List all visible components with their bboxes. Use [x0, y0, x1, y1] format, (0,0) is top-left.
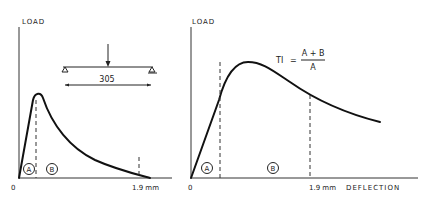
- left-chart: LOAD A B 0 1.9 mm 305: [11, 18, 172, 192]
- formula-denominator: A: [310, 63, 316, 72]
- formula-equals: =: [290, 56, 297, 65]
- left-origin-label: 0: [11, 184, 15, 192]
- beam-schematic: 305: [62, 44, 157, 87]
- right-load-curve: [191, 62, 380, 178]
- right-x-axis-label: DEFLECTION: [346, 184, 400, 192]
- right-support-icon: [149, 67, 155, 72]
- left-x-tick-label: 1.9 mm: [132, 184, 159, 192]
- load-deflection-diagram: LOAD A B 0 1.9 mm 305 LOAD: [0, 0, 436, 201]
- right-origin-label: 0: [188, 184, 192, 192]
- right-x-tick-label: 1.9 mm: [309, 184, 336, 192]
- load-arrow-icon: [106, 61, 111, 67]
- formula-lhs: TI: [275, 56, 283, 65]
- toughness-index-formula: TI = A + B A: [275, 49, 325, 72]
- left-load-curve: [19, 94, 150, 178]
- dimension-arrow-left-icon: [65, 84, 69, 87]
- right-chart: LOAD A B 0 1.9 mm DEFLECTION TI = A + B …: [188, 18, 418, 192]
- left-support-icon: [62, 67, 68, 72]
- right-region-a-label: A: [205, 165, 210, 173]
- dimension-arrow-right-icon: [147, 84, 151, 87]
- formula-numerator: A + B: [302, 49, 325, 58]
- left-region-a-label: A: [27, 166, 32, 174]
- right-y-axis-label: LOAD: [192, 18, 215, 26]
- span-label: 305: [99, 75, 114, 84]
- left-y-axis-label: LOAD: [22, 18, 45, 26]
- left-region-b-label: B: [50, 166, 55, 174]
- right-region-b-label: B: [271, 165, 276, 173]
